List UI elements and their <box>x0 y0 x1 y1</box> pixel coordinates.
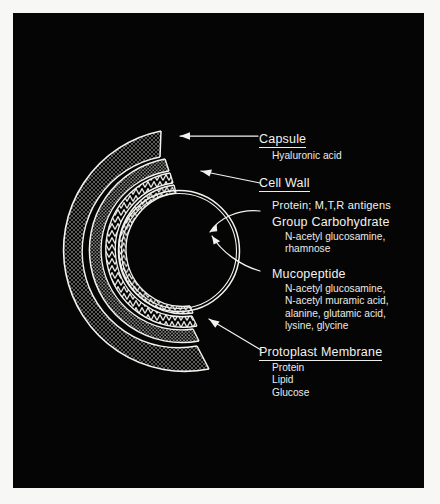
label-group-carbohydrate-items: N-acetyl glucosamine, rhamnose <box>272 231 390 256</box>
label-cell-wall-heading: Cell Wall <box>259 176 310 192</box>
label-protoplast-membrane: Protoplast Membrane Protein Lipid Glucos… <box>259 342 382 399</box>
label-protein-antigens-heading: Protein; M,T,R antigens <box>272 198 391 213</box>
label-protein-antigens: Protein; M,T,R antigens <box>272 195 391 213</box>
label-protoplast-membrane-item: Lipid <box>272 374 382 386</box>
figure-page: Capsule Hyaluronic acid Cell Wall Protei… <box>0 0 440 504</box>
label-protoplast-membrane-items: Protein Lipid Glucose <box>259 362 382 399</box>
label-mucopeptide-item: lysine, glycine <box>285 320 389 332</box>
label-mucopeptide-items: N-acetyl glucosamine, N-acetyl muramic a… <box>272 283 389 333</box>
figure-panel: Capsule Hyaluronic acid Cell Wall Protei… <box>13 13 424 488</box>
label-capsule-item: Hyaluronic acid <box>272 150 342 162</box>
label-capsule-heading: Capsule <box>259 132 306 148</box>
label-mucopeptide-item: N-acetyl glucosamine, <box>285 283 389 295</box>
label-group-carbohydrate-item: rhamnose <box>285 243 390 255</box>
label-protoplast-membrane-heading: Protoplast Membrane <box>259 345 382 361</box>
label-capsule-items: Hyaluronic acid <box>259 150 342 162</box>
label-cell-wall: Cell Wall <box>259 173 310 192</box>
label-group-carbohydrate: Group Carbohydrate N-acetyl glucosamine,… <box>272 212 390 256</box>
label-group-carbohydrate-item: N-acetyl glucosamine, <box>285 231 390 243</box>
label-mucopeptide-item: alanine, glutamic acid, <box>285 308 389 320</box>
label-group-carbohydrate-heading: Group Carbohydrate <box>272 215 390 230</box>
label-mucopeptide-item: N-acetyl muramic acid, <box>285 295 389 307</box>
label-mucopeptide-heading: Mucopeptide <box>272 267 346 282</box>
label-protoplast-membrane-item: Protein <box>272 362 382 374</box>
label-mucopeptide: Mucopeptide N-acetyl glucosamine, N-acet… <box>272 264 389 333</box>
label-protoplast-membrane-item: Glucose <box>272 387 382 399</box>
label-capsule: Capsule Hyaluronic acid <box>259 129 342 162</box>
